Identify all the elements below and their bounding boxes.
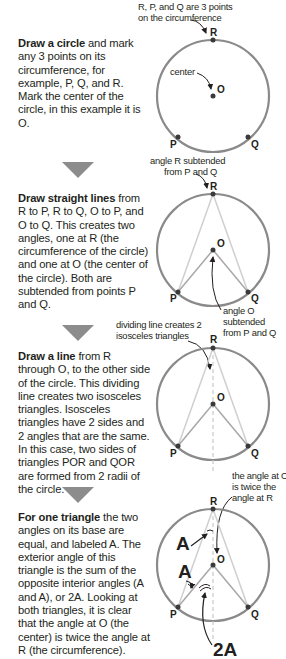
point-o	[211, 94, 216, 99]
chord-rp	[178, 509, 213, 607]
figure-3: dividing line creates 2 isosceles triang…	[116, 319, 269, 474]
angle-o-arrow-icon	[212, 257, 221, 310]
annotation-three-points-1: R, P, and Q are 3 points	[138, 1, 233, 12]
geometry-figures: R, P, and Q are 3 points on the circumfe…	[0, 0, 286, 659]
angle-label-a-upper: A	[176, 533, 190, 554]
annotation-center: center	[170, 66, 195, 77]
annotation-dividing-2: isosceles triangles	[116, 330, 189, 341]
point-q	[246, 135, 251, 140]
annotation-dividing-1: dividing line creates 2	[116, 319, 202, 330]
point-r	[211, 346, 216, 351]
point-r	[211, 507, 216, 512]
point-r	[211, 38, 216, 43]
annotation-angle-o-3: from P and Q	[223, 327, 276, 338]
angle-mark-o-ext-2	[200, 587, 211, 591]
annotation-twice-3: angle at R	[232, 492, 273, 503]
angle-mark-r	[207, 530, 213, 531]
center-arrow-icon	[197, 73, 211, 89]
chord-rp	[178, 348, 213, 446]
radius-op	[178, 250, 213, 292]
label-r: R	[210, 334, 218, 345]
label-q: Q	[251, 609, 259, 620]
label-q: Q	[251, 448, 259, 459]
figure-1: R, P, and Q are 3 points on the circumfe…	[138, 1, 269, 152]
annotation-twice-1: the angle at O	[232, 470, 286, 481]
label-r: R	[210, 27, 218, 38]
angle-label-2a: 2A	[213, 639, 238, 659]
point-q	[246, 290, 251, 295]
label-p: P	[170, 293, 177, 304]
annotation-three-points-2: on the circumference	[138, 12, 222, 23]
two-a-arrow-icon	[203, 593, 212, 645]
point-o	[211, 402, 216, 407]
annotation-angle-r-1: angle R subtended	[150, 155, 225, 166]
point-o	[211, 248, 216, 253]
annotation-angle-o-1: angle O	[223, 305, 254, 316]
point-q	[246, 605, 251, 610]
label-r: R	[210, 496, 218, 507]
label-r: R	[210, 181, 218, 192]
label-q: Q	[251, 293, 259, 304]
radius-oq	[213, 404, 248, 446]
annotation-angle-r-2: from P and Q	[164, 166, 217, 177]
label-p: P	[170, 609, 177, 620]
label-q: Q	[251, 139, 259, 150]
radius-oq	[213, 250, 248, 292]
radius-op	[178, 404, 213, 446]
angle-label-a-lower: A	[178, 561, 192, 582]
label-o: O	[217, 84, 225, 95]
label-o: O	[217, 554, 225, 565]
point-o	[211, 563, 216, 568]
a-upper-arrow-icon	[191, 534, 207, 546]
label-p: P	[170, 448, 177, 459]
label-o: O	[217, 392, 225, 403]
annotation-angle-o-2: subtended	[223, 316, 265, 327]
angle-mark-p	[188, 584, 193, 588]
figure-2: angle R subtended from P and Q R O P Q a…	[150, 155, 276, 338]
radius-oq	[213, 565, 248, 607]
label-o: O	[217, 238, 225, 249]
label-p: P	[170, 139, 177, 150]
chord-rp	[178, 194, 213, 292]
point-q	[246, 444, 251, 449]
annotation-twice-2: is twice the	[232, 481, 276, 492]
point-r	[211, 192, 216, 197]
figure-4: the angle at O is twice the angle at R R…	[157, 470, 286, 659]
